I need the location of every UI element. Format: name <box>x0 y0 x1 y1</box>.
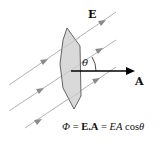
arrowhead-icon <box>40 59 48 65</box>
equals-sign: = <box>98 121 109 132</box>
area-vector-label: A <box>135 75 144 88</box>
cos-term: cos <box>122 121 139 132</box>
dot-product: E.A <box>81 121 98 132</box>
surface-area <box>60 28 81 109</box>
vector-arrowhead-icon <box>126 67 135 75</box>
ea-term: EA <box>110 121 123 132</box>
phi-symbol: Φ <box>62 121 70 132</box>
angle-label: θ <box>82 57 88 68</box>
angle-arc <box>92 57 96 71</box>
equals-sign: = <box>70 121 81 132</box>
theta-term: θ <box>139 121 144 132</box>
arrowhead-icon <box>34 119 42 125</box>
field-label: E <box>88 8 96 21</box>
arrowhead-icon <box>36 88 44 94</box>
flux-equation: Φ = E.A = EA cosθ <box>62 121 144 132</box>
arrowhead-icon <box>92 78 100 84</box>
